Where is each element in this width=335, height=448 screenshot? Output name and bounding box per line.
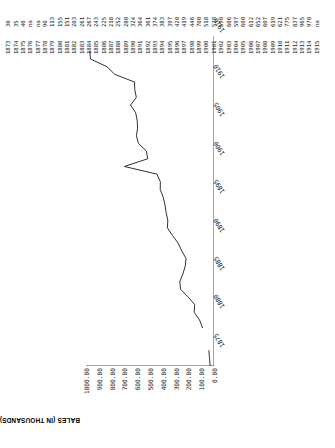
table-cell-year: 1874: [7, 27, 14, 55]
x-tick-label: 1900: [212, 140, 227, 157]
table-cell-year: 1877: [29, 27, 36, 55]
y-tick-label: 400.00: [160, 368, 167, 408]
table-cell-year: 1879: [44, 27, 51, 55]
table-cell-year: 1913: [294, 27, 301, 55]
table-cell-year: 1873: [0, 27, 7, 55]
y-tick-label: 200.00: [185, 368, 192, 408]
table-cell-value: 90: [37, 1, 44, 29]
table-cell-year: 1880: [51, 27, 58, 55]
table-cell-year: 1876: [22, 27, 29, 55]
y-axis-title: BALES (IN THOUSANDS): [0, 417, 80, 424]
y-tick-label: 300.00: [173, 368, 180, 408]
x-tick-label: 1905: [212, 101, 227, 118]
table-cell-value: 775: [279, 1, 286, 29]
table-cell-year: 1909: [264, 27, 271, 55]
x-tick-label: 1895: [212, 178, 227, 195]
data-series-line: [90, 51, 210, 366]
table-cell-value: na: [308, 1, 315, 29]
table-cell-value-text: na: [314, 20, 320, 27]
x-tick-label: 1890: [212, 216, 227, 233]
table-cell-value: 965: [294, 1, 301, 29]
y-tick-label: 900.00: [96, 368, 103, 408]
y-tick-label: 100.00: [198, 368, 205, 408]
table-cell-value: 40: [15, 1, 22, 29]
table-cell-value: 621: [272, 1, 279, 29]
table-cell-year: 1908: [257, 27, 264, 55]
chart-page: 303540nana901131551512032612672432252182…: [0, 0, 335, 448]
y-tick-label: 800.00: [109, 368, 116, 408]
table-cell-year: 1882: [66, 27, 73, 55]
table-cell-year: 1878: [37, 27, 44, 55]
axis-lines: [86, 36, 214, 366]
table-cell-value: 35: [7, 1, 14, 29]
y-tick-label: 0.00: [211, 368, 218, 408]
table-cell-year: 1910: [272, 27, 279, 55]
table-cell-value: na: [29, 1, 36, 29]
line-chart: BALES (IN THOUSANDS) 1000.00900.00800.00…: [80, 24, 256, 424]
table-cell-year-text: 1915: [314, 41, 320, 54]
table-cell-value: 113: [44, 1, 51, 29]
table-cell-year: 1914: [301, 27, 308, 55]
table-cell-value: 203: [66, 1, 73, 29]
table-cell-value: na: [22, 1, 29, 29]
table-cell-year: 1912: [286, 27, 293, 55]
table-cell-value: 607: [257, 1, 264, 29]
y-tick-label: 600.00: [134, 368, 141, 408]
chart-svg: [86, 36, 214, 366]
table-cell-value: 970: [301, 1, 308, 29]
x-tick-label: 1910: [212, 63, 227, 80]
plot-area: BALES (IN THOUSANDS) 1000.00900.00800.00…: [80, 24, 256, 424]
y-tick-label: 700.00: [121, 368, 128, 408]
y-tick-label: 500.00: [147, 368, 154, 408]
table-cell-value: 155: [51, 1, 58, 29]
x-tick-label: 1885: [212, 255, 227, 272]
table-cell-value: 619: [264, 1, 271, 29]
y-tick-label: 1000.00: [83, 368, 90, 408]
table-cell-year: 1875: [15, 27, 22, 55]
table-cell-year: 1911: [279, 27, 286, 55]
plot-canvas: 1000.00900.00800.00700.00600.00500.00400…: [86, 36, 214, 366]
table-cell-value: 30: [0, 1, 7, 29]
x-tick-label: 1875: [212, 331, 227, 348]
x-tick-label: 1880: [212, 293, 227, 310]
table-cell-year: 1915: [308, 27, 315, 55]
table-cell-value: 151: [59, 1, 66, 29]
table-cell-year: 1881: [59, 27, 66, 55]
table-cell-value: 837: [286, 1, 293, 29]
